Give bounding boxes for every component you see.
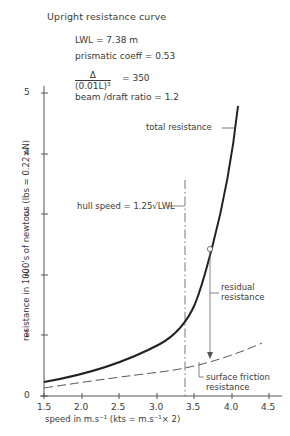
x-axis-label: speed in m.s⁻¹ (kts = m.s⁻¹× 2) bbox=[45, 414, 180, 424]
x-tick-label: 2.5 bbox=[111, 402, 125, 412]
residual-resistance-label: residual resistance bbox=[221, 282, 265, 302]
residual-label-line2: resistance bbox=[221, 292, 265, 302]
friction-label-line1: surface friction bbox=[206, 372, 270, 382]
residual-label-line1: residual bbox=[221, 282, 265, 292]
x-tick-label: 3.5 bbox=[186, 402, 200, 412]
friction-label-line2: resistance bbox=[206, 382, 270, 392]
x-tick-label: 1.5 bbox=[37, 402, 51, 412]
y-axis-label: resistance in 1000's of newtons (lbs = 0… bbox=[21, 141, 31, 341]
x-tick-label: 4.5 bbox=[261, 402, 275, 412]
y-tick-label: 5 bbox=[24, 87, 30, 97]
residual-top-marker bbox=[207, 246, 212, 251]
total-resistance-curve bbox=[44, 106, 238, 382]
residual-arrowhead bbox=[207, 352, 213, 359]
x-tick-label: 4.0 bbox=[224, 402, 238, 412]
x-tick-label: 2.0 bbox=[74, 402, 88, 412]
friction-resistance-label: surface friction resistance bbox=[206, 372, 270, 392]
y-tick-label: 0 bbox=[24, 390, 30, 400]
x-tick-label: 3.0 bbox=[149, 402, 163, 412]
hull-speed-label: hull speed = 1.25√LWL bbox=[77, 201, 175, 211]
total-resistance-label: total resistance bbox=[146, 122, 212, 132]
plot-area bbox=[0, 0, 290, 436]
